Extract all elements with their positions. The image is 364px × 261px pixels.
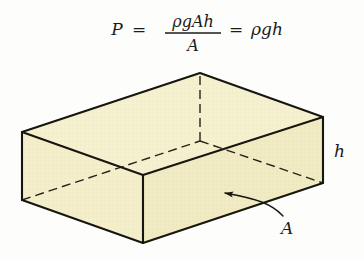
equation-lhs: P (110, 19, 123, 39)
equation-group: P = ρgAh A = ρgh (110, 12, 283, 55)
equation-denominator: A (185, 36, 199, 55)
equation-equals-second: = (229, 19, 243, 39)
equation-rhs: ρgh (250, 19, 283, 39)
pressure-box-diagram: P = ρgAh A = ρgh (0, 0, 364, 261)
figure-canvas: P = ρgAh A = ρgh (0, 0, 364, 261)
height-label: h (334, 141, 345, 161)
equation-equals-first: = (132, 19, 146, 39)
annotation-height: h (334, 141, 345, 161)
equation-numerator: ρgAh (171, 12, 214, 31)
box-3d (22, 73, 323, 243)
area-label: A (279, 218, 293, 238)
